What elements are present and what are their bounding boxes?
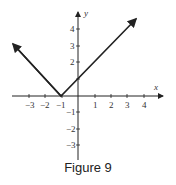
svg-text:−2: −2 bbox=[40, 100, 50, 110]
svg-text:2: 2 bbox=[70, 57, 75, 67]
svg-text:−3: −3 bbox=[25, 100, 35, 110]
svg-text:2: 2 bbox=[109, 100, 114, 110]
svg-text:4: 4 bbox=[142, 100, 147, 110]
graph: −3−2−11234 432−1−2−3 yx bbox=[0, 0, 176, 160]
svg-text:−3: −3 bbox=[66, 140, 76, 150]
function-curve bbox=[14, 19, 136, 96]
svg-text:3: 3 bbox=[125, 100, 130, 110]
svg-text:4: 4 bbox=[70, 24, 75, 34]
svg-text:−1: −1 bbox=[66, 107, 76, 117]
svg-text:−2: −2 bbox=[66, 124, 76, 134]
figure-caption: Figure 9 bbox=[0, 160, 176, 175]
svg-text:1: 1 bbox=[93, 100, 98, 110]
svg-text:3: 3 bbox=[70, 41, 75, 51]
svg-text:x: x bbox=[153, 82, 158, 92]
svg-text:−1: −1 bbox=[56, 100, 66, 110]
svg-text:y: y bbox=[83, 8, 88, 18]
